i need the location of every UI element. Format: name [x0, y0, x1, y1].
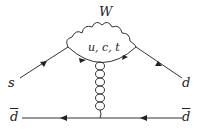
d-quark-label: d — [182, 76, 190, 89]
antiquark-left-label: d — [10, 110, 18, 123]
feynman-diagram — [0, 0, 202, 138]
antiquark-right-label: d — [182, 110, 190, 123]
loop-quarks-label: u, c, t — [88, 42, 120, 53]
gluon-coil — [96, 62, 105, 118]
arrow-left-icon — [140, 115, 147, 121]
arrow-left-icon — [60, 115, 67, 121]
s-quark-label: s — [8, 76, 15, 89]
w-boson-label: W — [99, 5, 112, 18]
